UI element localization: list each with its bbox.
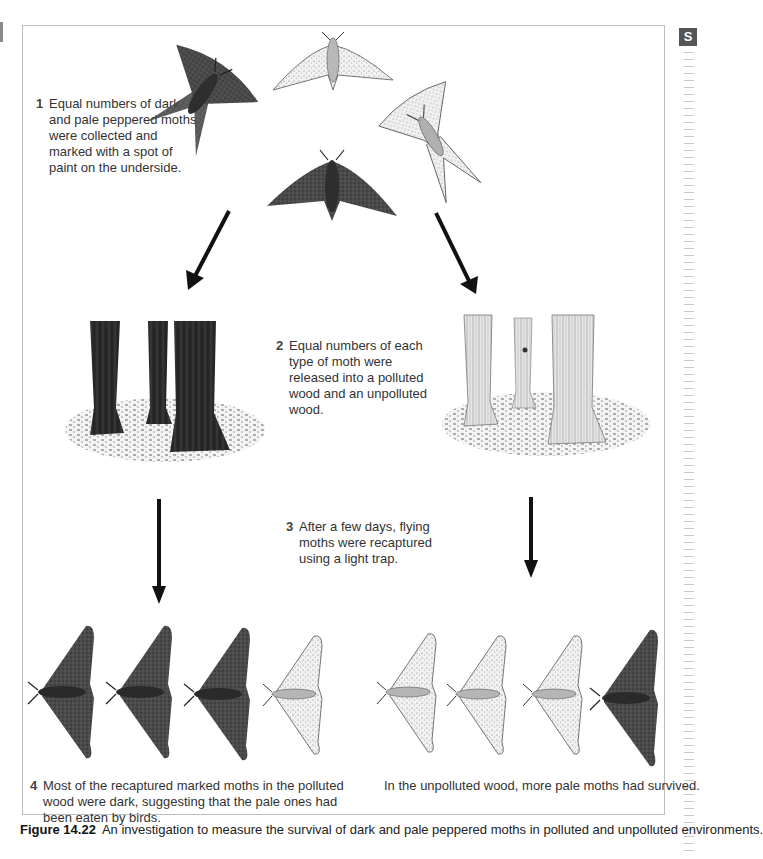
recaptured-polluted-moth-2-dark: [104, 624, 184, 764]
figure-caption: Figure 14.22An investigation to measure …: [20, 822, 763, 837]
unpolluted-result-text: In the unpolluted wood, more pale moths …: [384, 778, 700, 794]
step-4-text: 4 Most of the recaptured marked moths in…: [30, 778, 344, 826]
recaptured-unpolluted-moth-2-pale: [446, 634, 516, 764]
arrow-to-polluted-wood: [194, 211, 229, 278]
unpolluted-wood-illustration: [436, 312, 656, 462]
step-3-text: 3 After a few days, flying moths were re…: [286, 519, 432, 567]
polluted-wood-illustration: [60, 318, 270, 468]
figure-caption-text: An investigation to measure the survival…: [102, 822, 763, 837]
recaptured-polluted-moth-4-pale: [262, 634, 332, 764]
recaptured-unpolluted-moth-3-pale: [522, 634, 592, 764]
step-2-text: 2 Equal numbers of each type of moth wer…: [276, 338, 427, 418]
recaptured-unpolluted-moth-4-dark: [588, 628, 668, 774]
recaptured-unpolluted-moth-1-pale: [376, 632, 446, 762]
arrow-to-unpolluted-wood: [436, 213, 470, 283]
recaptured-polluted-moth-3-dark: [182, 626, 262, 766]
figure-number: Figure 14.22: [20, 822, 96, 837]
recaptured-polluted-moth-1-dark: [26, 624, 106, 764]
